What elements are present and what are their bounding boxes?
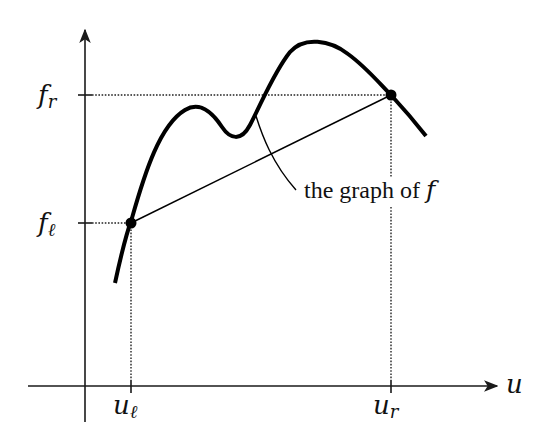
x-axis-label: u	[506, 369, 523, 399]
label-f-l: fℓ	[36, 208, 56, 240]
secant-line	[131, 95, 391, 223]
label-f-r: fr	[36, 80, 58, 112]
label-u-r: ur	[373, 390, 400, 422]
label-u-l: uℓ	[113, 390, 138, 422]
graph-figure: fr fℓ uℓ ur u the graph of f	[0, 0, 545, 445]
graph-annotation: the graph of f	[304, 175, 439, 204]
annotation-leader	[256, 116, 296, 190]
diagram-canvas: fr fℓ uℓ ur u the graph of f	[0, 0, 545, 445]
function-curve	[115, 42, 426, 283]
point-right	[386, 90, 397, 101]
point-left	[126, 218, 137, 229]
